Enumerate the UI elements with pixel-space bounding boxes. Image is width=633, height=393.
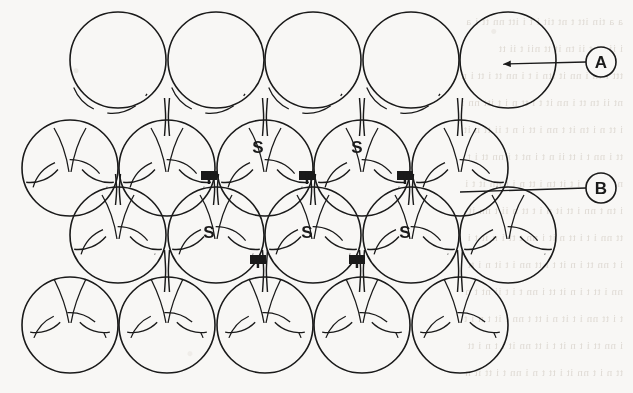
- hidden-sphere-arc: [249, 279, 264, 323]
- hidden-sphere-arc: [30, 322, 60, 332]
- tetrahedral-site-label: T: [352, 253, 363, 272]
- hidden-sphere-arc: [461, 128, 476, 172]
- octahedral-site-label: S: [351, 138, 362, 157]
- hidden-sphere-arc: [509, 195, 524, 239]
- sphere: [363, 187, 459, 283]
- hidden-sphere-arc: [266, 279, 281, 323]
- interstitial-site-labels: SSSSSTTTTT: [201, 138, 413, 272]
- contact-neck: [119, 174, 120, 205]
- contact-neck: [217, 174, 218, 205]
- sphere: [119, 277, 215, 373]
- hidden-sphere-arc: [444, 279, 459, 323]
- hidden-sphere-arc: [423, 160, 497, 188]
- sphere: [460, 12, 556, 108]
- hidden-sphere-arc: [71, 279, 86, 323]
- hidden-sphere-arc: [461, 279, 476, 323]
- hidden-sphere-arc: [225, 322, 255, 332]
- hidden-sphere-arc: [420, 322, 450, 332]
- hidden-sphere-arc: [127, 322, 157, 332]
- contact-neck: [461, 250, 462, 292]
- sphere: [217, 277, 313, 373]
- sphere: [168, 12, 264, 108]
- hidden-sphere-arc: [322, 322, 352, 332]
- hidden-sphere-arc: [269, 87, 342, 113]
- contact-neck: [461, 98, 462, 136]
- sphere: [168, 187, 264, 283]
- close-packing-diagram: SSSSSTTTTT AB: [0, 0, 633, 393]
- contact-neck: [165, 250, 166, 292]
- sphere-lattice: [22, 12, 556, 373]
- sphere: [22, 120, 118, 216]
- octahedral-site-label: S: [203, 223, 214, 242]
- contact-neck: [165, 98, 166, 136]
- tetrahedral-site-label: T: [253, 253, 264, 272]
- hidden-sphere-arc: [266, 128, 281, 172]
- sphere: [314, 277, 410, 373]
- tetrahedral-site-label: T: [204, 169, 215, 188]
- callout-b-letter: B: [595, 179, 607, 198]
- hidden-sphere-arc: [424, 313, 496, 338]
- hidden-sphere-arc: [179, 227, 253, 255]
- hidden-sphere-arc: [276, 227, 350, 255]
- hidden-sphere-arcs: [26, 87, 552, 337]
- sphere: [363, 12, 459, 108]
- contact-neck: [363, 98, 364, 136]
- hidden-sphere-arc: [151, 128, 166, 172]
- hidden-sphere-arc: [131, 313, 203, 338]
- hidden-sphere-arc: [229, 313, 301, 338]
- hidden-sphere-arc: [54, 128, 69, 172]
- hidden-sphere-arc: [372, 322, 402, 332]
- hidden-sphere-arc: [74, 87, 147, 113]
- contact-neck: [168, 98, 169, 136]
- hidden-sphere-arc: [367, 87, 440, 113]
- sphere: [412, 120, 508, 216]
- sphere: [265, 187, 361, 283]
- contact-neck: [266, 98, 267, 136]
- hidden-sphere-arc: [470, 322, 500, 332]
- sphere: [119, 120, 215, 216]
- hidden-sphere-arc: [34, 313, 106, 338]
- contact-neck: [360, 98, 361, 136]
- hidden-sphere-arc: [363, 279, 378, 323]
- hidden-sphere-arc: [363, 128, 378, 172]
- sphere: [217, 120, 313, 216]
- hidden-sphere-arc: [130, 160, 204, 188]
- sphere: [70, 12, 166, 108]
- contact-neck: [263, 98, 264, 136]
- figure-canvas: a a tin itt t nt tit i t i itt nn tt i a…: [0, 0, 633, 393]
- sphere: [314, 120, 410, 216]
- hidden-sphere-arc: [33, 160, 107, 188]
- sphere: [22, 277, 118, 373]
- tetrahedral-site-label: T: [400, 169, 411, 188]
- hidden-sphere-arc: [80, 322, 110, 332]
- hidden-sphere-arc: [325, 160, 399, 188]
- hidden-sphere-arc: [346, 279, 361, 323]
- octahedral-site-label: S: [399, 223, 410, 242]
- octahedral-site-label: S: [252, 138, 263, 157]
- hidden-sphere-arc: [81, 227, 155, 255]
- tetrahedral-site-label: T: [302, 169, 313, 188]
- hidden-sphere-arc: [228, 160, 302, 188]
- hidden-sphere-arc: [71, 128, 86, 172]
- hidden-sphere-arc: [172, 87, 245, 113]
- hidden-sphere-arc: [168, 128, 183, 172]
- contact-neck: [458, 250, 459, 292]
- sphere: [265, 12, 361, 108]
- octahedral-site-label: S: [301, 223, 312, 242]
- callout-a-leader-line: [503, 62, 586, 64]
- callout-a-letter: A: [595, 53, 607, 72]
- hidden-sphere-arc: [168, 279, 183, 323]
- contact-neck: [266, 250, 267, 292]
- hidden-sphere-arc: [151, 279, 166, 323]
- sphere: [460, 187, 556, 283]
- contact-neck: [458, 98, 459, 136]
- sphere: [70, 187, 166, 283]
- contact-neck: [168, 250, 169, 292]
- hidden-sphere-arc: [177, 322, 207, 332]
- hidden-sphere-arc: [275, 322, 305, 332]
- callout-labels: AB: [460, 47, 616, 203]
- hidden-sphere-arc: [54, 279, 69, 323]
- hidden-sphere-arc: [374, 227, 448, 255]
- hidden-sphere-arc: [471, 227, 545, 255]
- hidden-sphere-arc: [326, 313, 398, 338]
